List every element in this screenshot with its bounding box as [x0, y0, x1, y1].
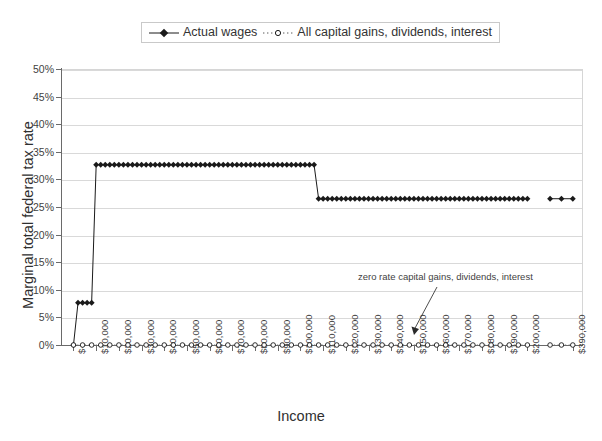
x-axis-label: $130,000	[373, 314, 383, 354]
y-axis-line	[61, 68, 62, 346]
x-axis-label: $160,000	[441, 314, 451, 354]
legend-label-actual-wages: Actual wages	[183, 26, 257, 39]
x-axis-label: $40,000	[168, 320, 178, 354]
x-axis-tick	[210, 346, 211, 351]
x-axis-label: $-	[77, 346, 87, 354]
plot-area	[62, 69, 583, 345]
gridline	[62, 236, 582, 237]
y-axis-tick	[56, 345, 61, 346]
x-axis-tick	[73, 346, 74, 351]
x-axis-tick	[346, 346, 347, 351]
x-axis-tick	[300, 346, 301, 351]
x-axis-label: $20,000	[123, 320, 133, 354]
gridline	[62, 291, 582, 292]
chart-container: Actual wages All capital gains, dividend…	[0, 0, 602, 441]
y-axis-label: 0%	[2, 340, 54, 351]
x-axis-label: $170,000	[463, 314, 473, 354]
legend-label-capital-gains: All capital gains, dividends, interest	[297, 26, 492, 39]
x-axis-tick	[323, 346, 324, 351]
y-axis-tick	[56, 207, 61, 208]
x-axis-tick	[187, 346, 188, 351]
gridline	[62, 98, 582, 99]
x-axis-tick	[414, 346, 415, 351]
x-axis-tick	[527, 346, 528, 351]
x-axis-label: $190,000	[509, 314, 519, 354]
gridline	[62, 180, 582, 181]
gridline	[62, 125, 582, 126]
x-axis-tick	[459, 346, 460, 351]
x-axis-label: $80,000	[259, 320, 269, 354]
x-axis-label: $180,000	[486, 314, 496, 354]
x-axis-label: $70,000	[236, 320, 246, 354]
annotation-zero-rate: zero rate capital gains, dividends, inte…	[358, 271, 533, 282]
x-axis-label: $200,000	[531, 314, 541, 354]
y-axis-tick	[56, 235, 61, 236]
gridline	[62, 70, 582, 71]
x-axis-label: $90,000	[282, 320, 292, 354]
filled-diamond-icon	[149, 27, 179, 39]
y-axis-tick	[56, 317, 61, 318]
x-axis-label: $390,000	[577, 314, 587, 354]
x-axis-tick	[164, 346, 165, 351]
x-axis-tick	[278, 346, 279, 351]
x-axis-label: $10,000	[100, 320, 110, 354]
gridline	[62, 318, 582, 319]
x-axis-tick	[391, 346, 392, 351]
y-axis-label: 50%	[2, 64, 54, 75]
open-circle-icon	[263, 27, 293, 39]
gridline	[62, 153, 582, 154]
x-axis-label: $120,000	[350, 314, 360, 354]
y-axis-tick	[56, 152, 61, 153]
gridline	[62, 208, 582, 209]
x-axis-tick	[96, 346, 97, 351]
x-axis-label: $30,000	[146, 320, 156, 354]
x-axis-tick	[437, 346, 438, 351]
x-axis-tick	[482, 346, 483, 351]
y-axis-tick	[56, 290, 61, 291]
y-axis-tick	[56, 179, 61, 180]
chart-legend: Actual wages All capital gains, dividend…	[141, 22, 500, 43]
x-axis-tick	[142, 346, 143, 351]
y-axis-tick	[56, 97, 61, 98]
x-axis-tick	[573, 346, 574, 351]
x-axis-label: $50,000	[191, 320, 201, 354]
x-axis-label: $140,000	[395, 314, 405, 354]
x-axis-tick	[505, 346, 506, 351]
legend-entry-actual-wages: Actual wages	[149, 26, 257, 39]
x-axis-tick	[255, 346, 256, 351]
x-axis-tick	[119, 346, 120, 351]
y-axis-tick	[56, 69, 61, 70]
y-axis-tick	[56, 262, 61, 263]
x-axis-label: $110,000	[327, 315, 337, 354]
x-axis-tick	[369, 346, 370, 351]
x-axis-label: $100,000	[304, 314, 314, 354]
x-axis-label: $60,000	[214, 320, 224, 354]
x-axis-label: $150,000	[418, 314, 428, 354]
x-axis-tick	[232, 346, 233, 351]
y-axis-tick	[56, 124, 61, 125]
x-axis-title: Income	[0, 408, 602, 424]
y-axis-title: Marginal total federal tax rate	[20, 95, 36, 335]
gridline	[62, 263, 582, 264]
legend-entry-capital-gains: All capital gains, dividends, interest	[263, 26, 492, 39]
